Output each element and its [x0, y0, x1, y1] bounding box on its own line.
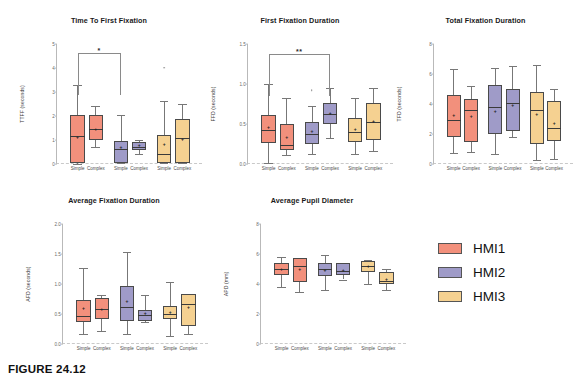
whisker-cap-upper	[351, 98, 360, 99]
whisker-cap-upper	[79, 268, 88, 269]
whisker-cap-lower	[282, 155, 291, 156]
x-tick-label: Simple	[163, 346, 177, 351]
whisker-cap-lower	[509, 137, 517, 138]
y-tick-label: 0	[429, 162, 432, 167]
x-tick-label: Complex	[174, 166, 192, 171]
y-axis-label-ttff: TTFF (seconds)	[19, 69, 25, 139]
whisker-cap-upper	[308, 106, 317, 107]
y-tick-label: 8	[256, 222, 259, 227]
legend-swatch-hmi3	[438, 291, 462, 302]
y-tick-label: 4	[52, 66, 55, 71]
y-tick-mark	[246, 164, 248, 165]
whisker-cap-upper	[491, 68, 499, 69]
y-tick-label: 1.5	[239, 42, 245, 47]
significance-leg-right	[329, 54, 330, 96]
whisker-cap-lower	[160, 163, 169, 164]
x-tick-label: Simple	[157, 166, 171, 171]
x-tick-label: Simple	[262, 166, 276, 171]
plot-area-ttff: 012345+Simple+Complex+Simple+Complex+Sim…	[56, 44, 202, 164]
legend-label-hmi2: HMI2	[473, 265, 505, 280]
legend-label-hmi1: HMI1	[473, 241, 505, 256]
outlier-point	[163, 67, 165, 69]
y-tick-mark	[61, 314, 63, 315]
whisker-cap-lower	[277, 287, 286, 288]
y-tick-mark	[61, 254, 63, 255]
whisker-cap-lower	[326, 138, 335, 139]
y-axis-label-afd: AFD (seconds)	[25, 249, 31, 319]
x-tick-label: Complex	[130, 166, 148, 171]
y-axis-label-apd: APD (mm)	[223, 249, 229, 319]
significance-star: **	[296, 48, 302, 55]
box-hmi1-complex	[464, 99, 478, 142]
legend: HMI1HMI2HMI3	[438, 236, 568, 308]
y-tick-label: 0.5	[239, 122, 245, 127]
whisker-cap-lower	[97, 331, 106, 332]
x-tick-label: Simple	[305, 166, 319, 171]
y-tick-label: 5	[52, 42, 55, 47]
x-tick-label: Simple	[348, 166, 362, 171]
x-tick-label: Simple	[77, 346, 91, 351]
whisker-cap-lower	[264, 163, 273, 164]
figure-24-12: Time To First FixationTTFF (seconds)0123…	[0, 0, 578, 386]
whisker-cap-upper	[135, 140, 144, 141]
whisker-cap-upper	[178, 104, 187, 105]
whisker-cap-upper	[326, 88, 335, 89]
median-line	[348, 132, 362, 133]
whisker-cap-upper	[369, 88, 378, 89]
median-line	[305, 134, 319, 135]
x-tick-label: Complex	[321, 166, 339, 171]
y-tick-mark	[246, 84, 248, 85]
y-tick-label: 2	[429, 132, 432, 137]
whisker-cap-lower	[339, 280, 348, 281]
plot-area-tfd: 02468+Simple+Complex+Simple+Complex+Simp…	[433, 44, 573, 164]
x-tick-label: Complex	[87, 166, 105, 171]
plot-area-apd: 02468+Simple+Complex+Simple+Complex+Simp…	[260, 224, 406, 344]
box-hmi3-simple	[530, 92, 544, 144]
median-line	[120, 307, 134, 308]
y-tick-label: 3	[52, 90, 55, 95]
legend-swatch-hmi1	[438, 243, 462, 254]
whisker-cap-lower	[550, 159, 558, 160]
x-tick-label: Simple	[530, 166, 544, 171]
whisker-cap-upper	[117, 115, 126, 116]
y-tick-label: 1.0	[54, 282, 60, 287]
x-tick-label: Complex	[278, 166, 296, 171]
y-tick-label: 1	[52, 138, 55, 143]
chart-panel-afd: Average Fixation DurationAFD (seconds)0.…	[14, 196, 214, 368]
x-tick-label: Simple	[120, 346, 134, 351]
x-tick-label: Simple	[71, 166, 85, 171]
y-tick-mark	[246, 44, 248, 45]
x-tick-label: Complex	[291, 346, 309, 351]
y-tick-label: 0.0	[54, 342, 60, 347]
y-tick-label: 1.5	[54, 252, 60, 257]
chart-title-afd: Average Fixation Duration	[14, 196, 214, 205]
chart-title-apd: Average Pupil Diameter	[212, 196, 412, 205]
median-line	[464, 110, 478, 111]
chart-title-ttff: Time To First Fixation	[14, 16, 204, 25]
y-tick-mark	[246, 124, 248, 125]
chart-title-tfd: Total Fixation Duration	[393, 16, 578, 25]
whisker-cap-upper	[450, 69, 458, 70]
whisker-cap-lower	[117, 163, 126, 164]
whisker-cap-lower	[91, 147, 100, 148]
legend-item-hmi3: HMI3	[438, 284, 568, 308]
whisker-cap-upper	[97, 295, 106, 296]
whisker-cap-lower	[79, 334, 88, 335]
y-tick-label: 6	[256, 252, 259, 257]
x-tick-label: Simple	[447, 166, 461, 171]
whisker-cap-lower	[533, 160, 541, 161]
significance-leg-left	[269, 54, 270, 96]
legend-swatch-hmi2	[438, 267, 462, 278]
outlier-point	[311, 90, 313, 92]
x-tick-label: Simple	[488, 166, 502, 171]
y-tick-label: 8	[429, 42, 432, 47]
whisker-cap-lower	[135, 154, 144, 155]
x-tick-label: Complex	[93, 346, 111, 351]
median-line	[547, 128, 561, 129]
chart-title-ffd: First Fixation Duration	[205, 16, 395, 25]
whisker-cap-upper	[550, 89, 558, 90]
y-tick-label: 0.0	[239, 162, 245, 167]
whisker-cap-upper	[533, 65, 541, 66]
y-axis-label-ffd: FFD (seconds)	[210, 69, 216, 139]
x-tick-label: Simple	[275, 346, 289, 351]
